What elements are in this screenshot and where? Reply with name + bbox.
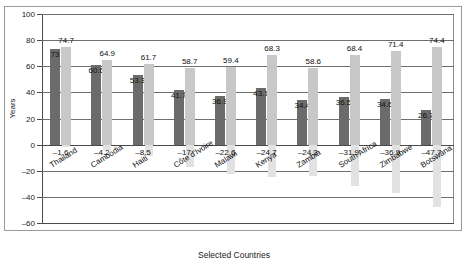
bar-value-label-b: 68.4 xyxy=(343,44,367,53)
bar-value-label-b: 58.6 xyxy=(301,57,325,66)
bar-series-b xyxy=(267,55,277,144)
bar-series-b xyxy=(350,55,360,144)
bar-series-b xyxy=(102,60,112,145)
bar-value-label-b: 74.4 xyxy=(425,36,449,45)
bar-chart: Years 100806040200–20–40–607374.7–1.6Tha… xyxy=(0,0,468,277)
bar-value-label-b: 64.9 xyxy=(95,49,119,58)
x-axis-title: Selected Countries xyxy=(0,250,468,260)
bar-value-label-b: 74.7 xyxy=(54,36,78,45)
bar-series-b xyxy=(61,47,71,145)
bar-value-label-b: 71.4 xyxy=(384,40,408,49)
y-axis-tick-label: 60 xyxy=(26,62,35,71)
plot-area: 100806040200–20–40–607374.7–1.6Thailand6… xyxy=(42,14,454,223)
y-axis-tick xyxy=(37,119,42,120)
y-axis-tick-label: –40 xyxy=(22,192,35,201)
bar-series-a xyxy=(133,75,143,145)
bar-series-c-negative xyxy=(62,145,70,147)
bar-value-label-b: 58.7 xyxy=(178,57,202,66)
y-axis-title: Years xyxy=(8,79,17,139)
bar-series-b xyxy=(391,51,401,144)
bar-series-b xyxy=(308,68,318,145)
bar-value-label-b: 68.3 xyxy=(260,44,284,53)
y-axis-tick xyxy=(37,40,42,41)
y-axis-tick-label: –20 xyxy=(22,166,35,175)
bar-series-b xyxy=(185,68,195,145)
y-axis-tick xyxy=(37,66,42,67)
bar-value-label-b: 59.4 xyxy=(219,56,243,65)
y-axis-tick xyxy=(37,145,42,146)
bar-series-a xyxy=(50,49,60,144)
y-axis-tick xyxy=(37,197,42,198)
y-axis-tick xyxy=(37,14,42,15)
bar-series-b xyxy=(144,64,154,145)
y-axis-tick-label: –60 xyxy=(22,219,35,228)
bar-value-label-b: 61.7 xyxy=(137,53,161,62)
y-axis-tick-label: 40 xyxy=(26,88,35,97)
y-axis-tick-label: 0 xyxy=(31,140,35,149)
y-axis-tick-label: 20 xyxy=(26,114,35,123)
y-axis-tick xyxy=(37,171,42,172)
y-axis-tick-label: 80 xyxy=(26,36,35,45)
y-axis-tick xyxy=(37,92,42,93)
gridline xyxy=(42,14,454,15)
gridline xyxy=(42,197,454,198)
bar-series-b xyxy=(432,47,442,144)
bar-series-b xyxy=(226,67,236,145)
y-axis-tick-label: 100 xyxy=(22,10,35,19)
y-axis-tick xyxy=(37,223,42,224)
bar-series-a xyxy=(91,65,101,144)
gridline xyxy=(42,223,454,224)
